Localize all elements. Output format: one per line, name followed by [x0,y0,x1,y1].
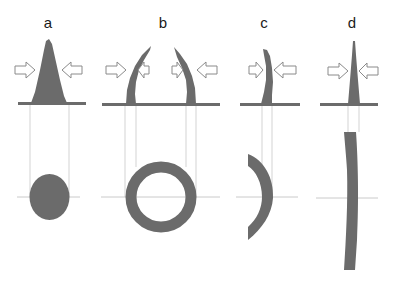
cross-section-a [30,174,70,220]
panel-b [101,46,220,227]
profile-shape-a [31,39,67,103]
arrow-right-icon [15,62,35,78]
arrow-left-icon [62,62,82,78]
arrow-right-icon [249,62,263,78]
panel-c [236,49,300,240]
arrow-left-icon [274,62,296,78]
profile-shape-c [261,49,273,104]
panel-d [316,41,378,270]
arrow-right-icon [106,62,126,78]
arrow-right-icon [328,63,348,79]
panel-label-a: a [44,14,53,31]
cross-section-d-arc [344,132,358,270]
profile-shape-b-left [126,46,151,104]
figure-canvas: a b c d [0,0,393,284]
profile-shape-d [348,41,360,104]
panel-label-c: c [260,14,268,31]
arrow-left-icon [359,63,378,79]
panel-label-b: b [159,14,167,31]
panel-a [15,39,86,220]
panel-label-d: d [348,14,356,31]
arrow-left-icon [197,62,217,78]
